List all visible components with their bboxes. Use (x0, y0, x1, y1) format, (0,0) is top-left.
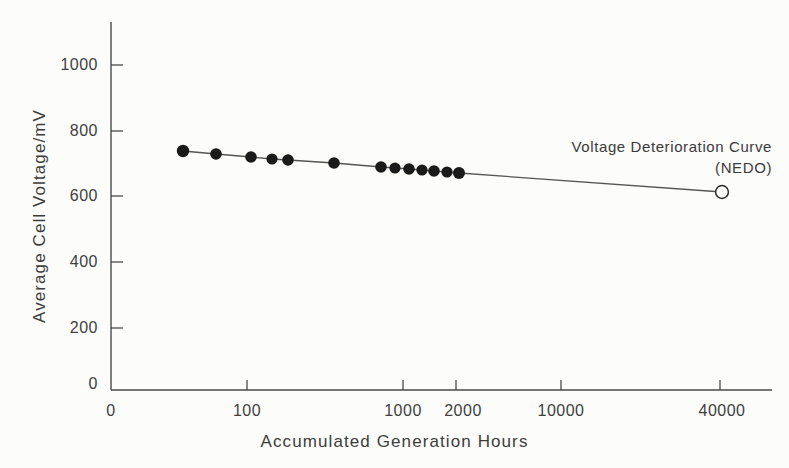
data-point (416, 164, 427, 175)
y-axis-ticks (111, 65, 123, 328)
x-tick-label-10000: 10000 (538, 402, 585, 420)
data-point (441, 166, 452, 177)
x-axis-title: Accumulated Generation Hours (0, 432, 789, 452)
data-point (282, 154, 294, 166)
x-tick-label-40000: 40000 (699, 402, 746, 420)
data-point (245, 151, 257, 163)
data-point (375, 161, 387, 173)
data-point (453, 167, 465, 179)
plot-canvas (0, 0, 789, 468)
data-point (328, 157, 340, 169)
data-point (177, 145, 189, 157)
curve-annotation-line2: (NEDO) (520, 157, 772, 178)
x-tick-label-1000: 1000 (384, 402, 422, 420)
data-point (266, 153, 277, 164)
data-point (210, 148, 222, 160)
endpoint-open-marker (716, 186, 729, 199)
data-point (403, 163, 415, 175)
x-tick-label-2000: 2000 (444, 402, 482, 420)
y-tick-label-0: 0 (32, 375, 98, 393)
curve-annotation: Voltage Deterioration Curve (NEDO) (520, 136, 772, 178)
x-axis-ticks (247, 380, 720, 390)
x-tick-label-100: 100 (233, 402, 261, 420)
curve-annotation-line1: Voltage Deterioration Curve (520, 136, 772, 157)
chart-page: 1000 800 600 400 200 0 0 100 1000 2000 1… (0, 0, 789, 468)
figure-container: 1000 800 600 400 200 0 0 100 1000 2000 1… (0, 0, 789, 468)
data-point (389, 162, 400, 173)
x-tick-label-0: 0 (106, 402, 115, 420)
y-axis-title: Average Cell Voltage/mV (30, 56, 50, 376)
data-point (428, 165, 440, 177)
